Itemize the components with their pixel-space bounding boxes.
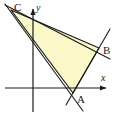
vertex-label-c: C	[14, 2, 21, 13]
y-axis-label: y	[36, 3, 40, 13]
geometry-figure: C B A x y	[0, 0, 116, 117]
triangle-fill-group	[11, 10, 99, 93]
vertex-label-b: B	[103, 45, 110, 56]
geometry-canvas	[0, 0, 116, 117]
vertex-label-a: A	[77, 94, 85, 105]
x-axis-label: x	[101, 73, 105, 83]
triangle-abc-shape	[11, 10, 99, 93]
